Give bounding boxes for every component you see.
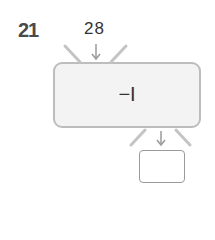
output-arrow-icon	[157, 131, 165, 145]
answer-box[interactable]	[139, 150, 185, 183]
input-arrow-icon	[92, 44, 100, 59]
